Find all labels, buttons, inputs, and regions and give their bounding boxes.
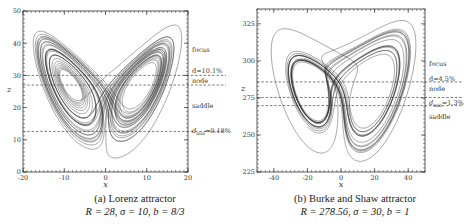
x-axis-label: x bbox=[339, 180, 344, 189]
annotation-label: dmin=1.3% bbox=[429, 99, 464, 108]
x-axis-label: x bbox=[103, 180, 108, 189]
x-tick-label: 20 bbox=[370, 174, 378, 182]
x-tick-label: 40 bbox=[404, 174, 412, 182]
caption-b-title: (b) Burke and Shaw attractor bbox=[255, 192, 455, 205]
x-tick-label: -10 bbox=[59, 174, 69, 182]
x-tick-label: -40 bbox=[269, 174, 279, 182]
annotation-label: dmin=0.18% bbox=[192, 127, 231, 136]
y-tick-label: 50 bbox=[13, 7, 21, 15]
y-tick-label: 250 bbox=[243, 131, 255, 139]
y-tick-label: 275 bbox=[243, 94, 255, 102]
y-tick-label: 300 bbox=[243, 57, 255, 65]
y-tick-label: 40 bbox=[13, 40, 21, 48]
annotation-label: d=4.5% bbox=[429, 75, 455, 83]
caption-b-params: R = 278.56, σ = 30, b = 1 bbox=[255, 205, 455, 218]
annotation-label: saddle bbox=[429, 113, 451, 121]
annotation-label: node bbox=[192, 77, 208, 85]
y-tick-label: 10 bbox=[13, 136, 21, 144]
y-tick-label: 0 bbox=[17, 168, 21, 176]
panel-burke-shaw: -40-2002040225250275300325xzfocusd=4.5%n… bbox=[240, 9, 464, 189]
y-axis-label: z bbox=[6, 85, 12, 94]
y-tick-label: 225 bbox=[243, 168, 255, 176]
x-tick-label: -20 bbox=[302, 174, 312, 182]
annotation-label: node bbox=[429, 85, 445, 93]
x-tick-label: 10 bbox=[143, 174, 151, 182]
annotation-label: saddle bbox=[192, 102, 214, 110]
annotation-label: focus bbox=[192, 46, 209, 54]
x-tick-label: 20 bbox=[184, 174, 192, 182]
caption-a-title: (a) Lorenz attractor bbox=[40, 192, 230, 205]
panel-lorenz: -20-100102001020304050xzfocusd=10.1%node… bbox=[6, 7, 231, 189]
trajectory-line bbox=[271, 21, 416, 162]
figure: -20-100102001020304050xzfocusd=10.1%node… bbox=[0, 0, 468, 190]
annotation-label: d=10.1% bbox=[192, 67, 222, 75]
caption-a: (a) Lorenz attractor R = 28, σ = 10, b =… bbox=[40, 192, 230, 218]
caption-b: (b) Burke and Shaw attractor R = 278.56,… bbox=[255, 192, 455, 218]
y-tick-label: 325 bbox=[243, 20, 255, 28]
caption-a-params: R = 28, σ = 10, b = 8/3 bbox=[40, 205, 230, 218]
y-axis-label: z bbox=[240, 84, 246, 93]
y-tick-label: 20 bbox=[13, 104, 21, 112]
y-tick-label: 30 bbox=[13, 72, 21, 80]
plot-frame bbox=[257, 9, 425, 172]
annotation-label: focus bbox=[429, 60, 446, 68]
trajectory-line bbox=[33, 25, 181, 158]
